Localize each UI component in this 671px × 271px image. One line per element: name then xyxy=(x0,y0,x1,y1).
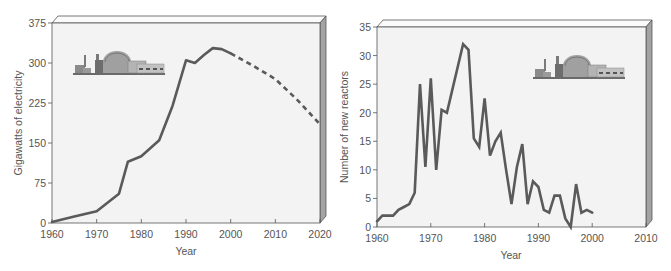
charts-canvas: 075150225300375 196019701980199020002010… xyxy=(0,0,671,271)
box-side-face xyxy=(320,16,326,223)
y-tick-label: 25 xyxy=(359,78,371,90)
plot-area xyxy=(52,23,320,223)
y-tick-label: 150 xyxy=(28,137,46,149)
y-axis-title: Gigawatts of electricity xyxy=(12,70,24,176)
y-tick-label: 375 xyxy=(28,17,46,29)
x-tick-label: 1990 xyxy=(174,228,198,240)
x-axis-title: Year xyxy=(175,245,197,257)
x-tick-label: 2000 xyxy=(581,232,605,244)
x-tick-label: 2010 xyxy=(264,228,288,240)
y-tick-label: 10 xyxy=(359,164,371,176)
y-tick-label: 225 xyxy=(28,97,46,109)
new-reactors-chart: 05101520253035 196019701980199020002010 … xyxy=(338,20,658,261)
x-tick-label: 1970 xyxy=(85,228,109,240)
x-tick-label: 1970 xyxy=(419,232,443,244)
box-side-face xyxy=(646,20,652,227)
y-tick-label: 20 xyxy=(359,107,371,119)
y-tick-label: 30 xyxy=(359,50,371,62)
x-tick-label: 2010 xyxy=(634,232,658,244)
y-axis-title: Number of new reactors xyxy=(338,71,350,183)
x-tick-label: 1980 xyxy=(130,228,154,240)
x-tick-label: 1960 xyxy=(40,228,64,240)
box-top-face xyxy=(377,20,652,27)
y-tick-label: 15 xyxy=(359,135,371,147)
x-tick-label: 1960 xyxy=(365,232,389,244)
y-tick-label: 5 xyxy=(365,192,371,204)
x-tick-label: 2000 xyxy=(219,228,243,240)
x-tick-label: 1990 xyxy=(527,232,551,244)
x-tick-label: 2020 xyxy=(308,228,332,240)
y-tick-label: 75 xyxy=(34,177,46,189)
y-tick-label: 35 xyxy=(359,21,371,33)
y-axis: 05101520253035 xyxy=(359,21,377,233)
y-tick-label: 300 xyxy=(28,57,46,69)
x-tick-label: 1980 xyxy=(473,232,497,244)
y-axis: 075150225300375 xyxy=(28,17,52,229)
gigawatts-chart: 075150225300375 196019701980199020002010… xyxy=(12,16,332,257)
box-top-face xyxy=(52,16,326,23)
x-axis-title: Year xyxy=(500,249,522,261)
